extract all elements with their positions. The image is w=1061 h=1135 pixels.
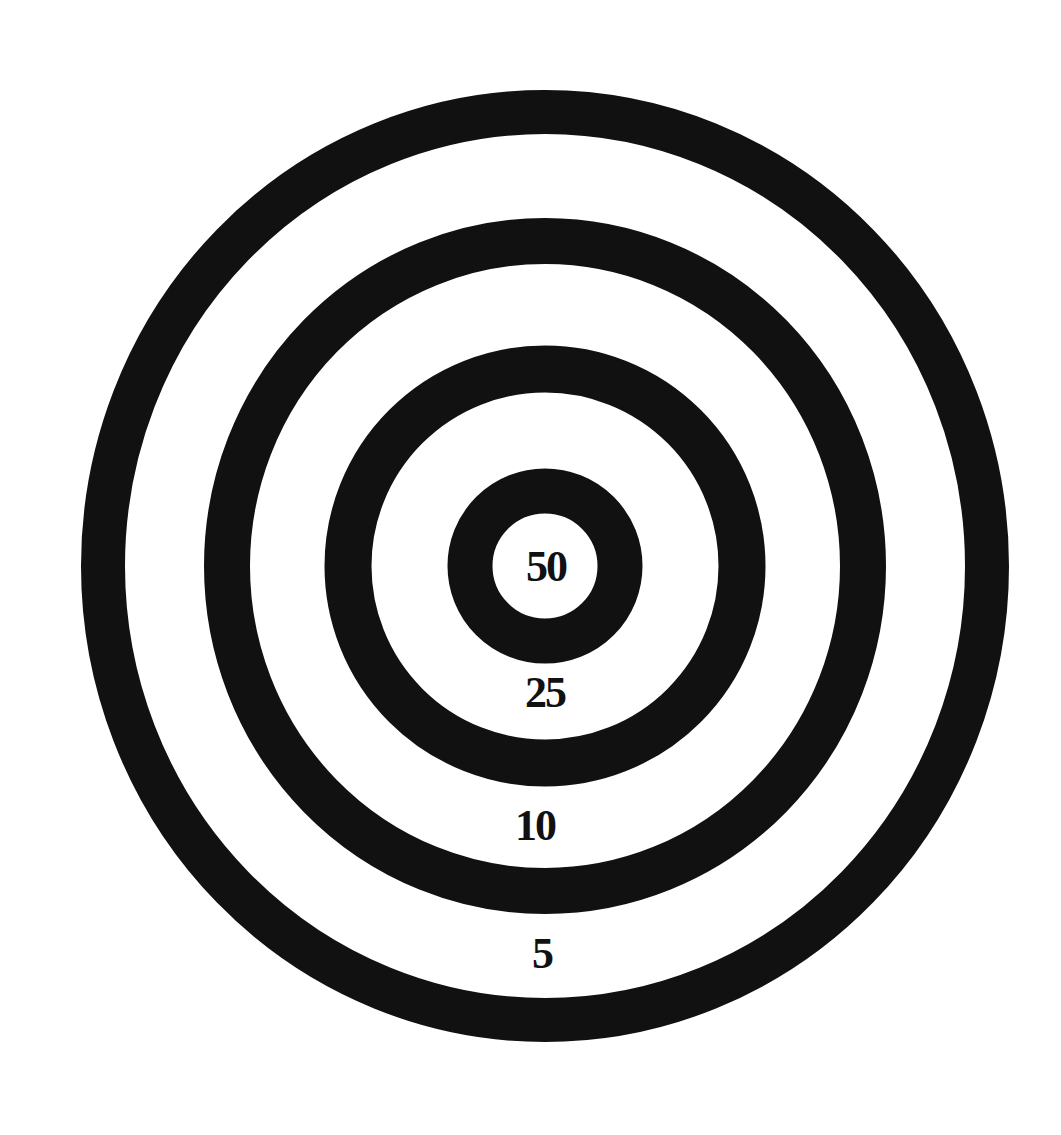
- score-label-50: 50: [526, 545, 566, 589]
- score-label-5: 5: [532, 932, 552, 976]
- score-label-10: 10: [515, 804, 555, 848]
- score-label-25: 25: [525, 671, 565, 715]
